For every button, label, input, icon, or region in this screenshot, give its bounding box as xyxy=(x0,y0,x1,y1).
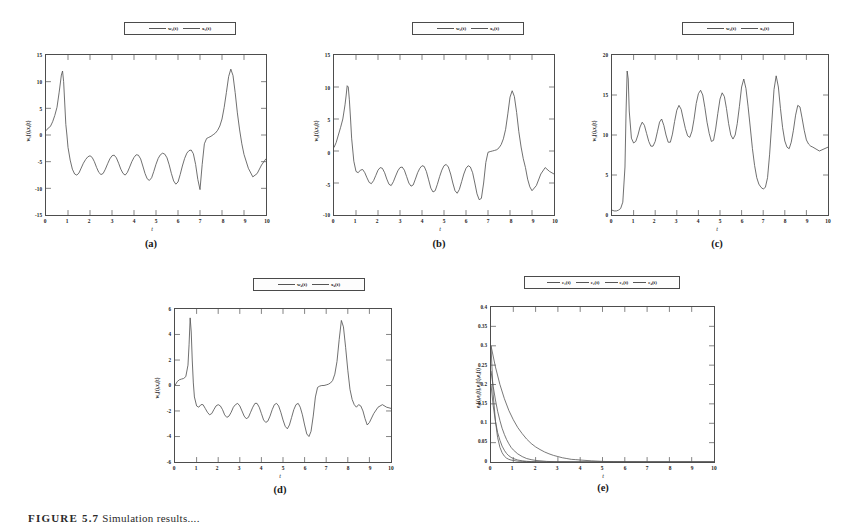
legend-panel-a: w₁(t) x₁(t) xyxy=(124,22,236,35)
legend-label: x₄(t) xyxy=(331,282,340,287)
x-tick: 2 xyxy=(211,465,223,471)
legend-line-icon xyxy=(547,282,560,283)
x-tick: 9 xyxy=(527,218,539,224)
legend-label: x₃(t) xyxy=(760,26,769,31)
series-line-e1 xyxy=(491,346,714,462)
y-tick: 0.2 xyxy=(463,381,487,387)
x-tick: 10 xyxy=(384,465,398,471)
x-tick: 0 xyxy=(168,465,180,471)
legend-label: e₁(t) xyxy=(562,280,571,285)
x-tick: 5 xyxy=(150,218,162,224)
x-tick: 1 xyxy=(627,218,639,224)
x-tick: 6 xyxy=(460,218,472,224)
plot-svg-e xyxy=(491,307,714,462)
x-tick: 4 xyxy=(416,218,428,224)
legend-line-icon xyxy=(149,28,166,29)
x-tick: 3 xyxy=(670,218,682,224)
y-tick: 0.25 xyxy=(460,362,487,368)
series-line-w3 xyxy=(612,71,828,211)
legend-item-e2: e₂(t) xyxy=(576,280,600,285)
legend-item-w4: w₄(t) xyxy=(278,282,307,287)
y-tick: -5 xyxy=(307,182,330,188)
y-tick: 0 xyxy=(463,458,487,464)
legend-label: x₂(t) xyxy=(490,26,499,31)
x-tick: 1 xyxy=(349,218,361,224)
legend-line-icon xyxy=(471,28,488,29)
x-tick: 1 xyxy=(190,465,202,471)
x-tick: 8 xyxy=(217,218,229,224)
legend-line-icon xyxy=(633,282,646,283)
series-line-w4 xyxy=(175,318,391,437)
x-tick: 5 xyxy=(596,465,608,471)
x-tick: 10 xyxy=(260,218,274,224)
x-tick: 6 xyxy=(736,218,748,224)
y-axis-label-e: e₁(t),e₂(t),e₃(t),e₄(t) xyxy=(475,333,481,443)
x-tick: 5 xyxy=(438,218,450,224)
legend-item-e3: e₃(t) xyxy=(605,280,629,285)
y-tick: -4 xyxy=(148,433,171,439)
x-tick: 5 xyxy=(277,465,289,471)
panel-tag-a: (a) xyxy=(131,238,171,249)
x-tick: 8 xyxy=(505,218,517,224)
x-tick: 2 xyxy=(83,218,95,224)
legend-panel-d: w₄(t) x₄(t) xyxy=(253,278,365,291)
legend-item-x1: x₁(t) xyxy=(183,26,211,31)
x-tick: 9 xyxy=(686,465,698,471)
x-tick: 5 xyxy=(714,218,726,224)
x-tick: 7 xyxy=(320,465,332,471)
y-tick: 15 xyxy=(310,52,330,58)
y-tick: 10 xyxy=(310,85,330,91)
y-tick: -2 xyxy=(148,408,171,414)
panel-tag-b: (b) xyxy=(419,238,459,249)
legend-line-icon xyxy=(576,282,589,283)
y-axis-label-c: w₃(t),x₃(t) xyxy=(591,101,597,161)
legend-label: x₁(t) xyxy=(202,26,211,31)
series-line-w2 xyxy=(334,86,554,200)
x-tick: 7 xyxy=(194,218,206,224)
panel-tag-e: (e) xyxy=(583,482,623,493)
plot-svg-a xyxy=(46,55,266,215)
panel-tag-c: (c) xyxy=(697,238,737,249)
legend-line-icon xyxy=(707,28,724,29)
plot-svg-d xyxy=(175,309,391,462)
x-tick: 4 xyxy=(692,218,704,224)
y-tick: 10 xyxy=(588,132,608,138)
y-tick: 20 xyxy=(588,52,608,58)
legend-panel-e: e₁(t) e₂(t) e₃(t) e₄(t) xyxy=(524,276,680,289)
y-tick: 0.4 xyxy=(463,304,487,310)
figure-caption-text: Simulation results.... xyxy=(102,512,199,524)
legend-label: e₃(t) xyxy=(620,280,629,285)
x-axis-label-b: t xyxy=(433,226,447,232)
x-tick: 0 xyxy=(605,218,617,224)
x-tick: 7 xyxy=(641,465,653,471)
legend-label: e₂(t) xyxy=(591,280,600,285)
legend-line-icon xyxy=(278,284,295,285)
y-tick: 10 xyxy=(22,79,42,85)
x-tick: 1 xyxy=(506,465,518,471)
plot-svg-c xyxy=(612,55,828,215)
x-tick: 3 xyxy=(394,218,406,224)
y-tick: 0.1 xyxy=(463,419,487,425)
plot-area-e xyxy=(490,306,715,463)
legend-label: w₁(t) xyxy=(168,26,178,31)
x-tick: 6 xyxy=(299,465,311,471)
figure-caption: FIGURE 5.7 Simulation results.... xyxy=(28,512,828,528)
y-tick: 5 xyxy=(588,172,608,178)
legend-line-icon xyxy=(741,28,758,29)
legend-panel-c: w₃(t) x₃(t) xyxy=(682,22,794,35)
legend-item-x3: x₃(t) xyxy=(741,26,769,31)
series-line-e4 xyxy=(491,346,714,462)
x-tick: 1 xyxy=(61,218,73,224)
legend-label: e₄(t) xyxy=(648,280,657,285)
plot-svg-b xyxy=(334,55,554,215)
legend-item-w1: w₁(t) xyxy=(149,26,178,31)
panel-tag-d: (d) xyxy=(260,484,300,495)
legend-line-icon xyxy=(605,282,618,283)
x-tick: 6 xyxy=(172,218,184,224)
x-tick: 3 xyxy=(106,218,118,224)
y-tick: 0 xyxy=(310,150,330,156)
y-tick: 0.15 xyxy=(460,400,487,406)
y-tick: -10 xyxy=(19,186,42,192)
x-axis-label-c: t xyxy=(710,226,724,232)
x-tick: 2 xyxy=(371,218,383,224)
